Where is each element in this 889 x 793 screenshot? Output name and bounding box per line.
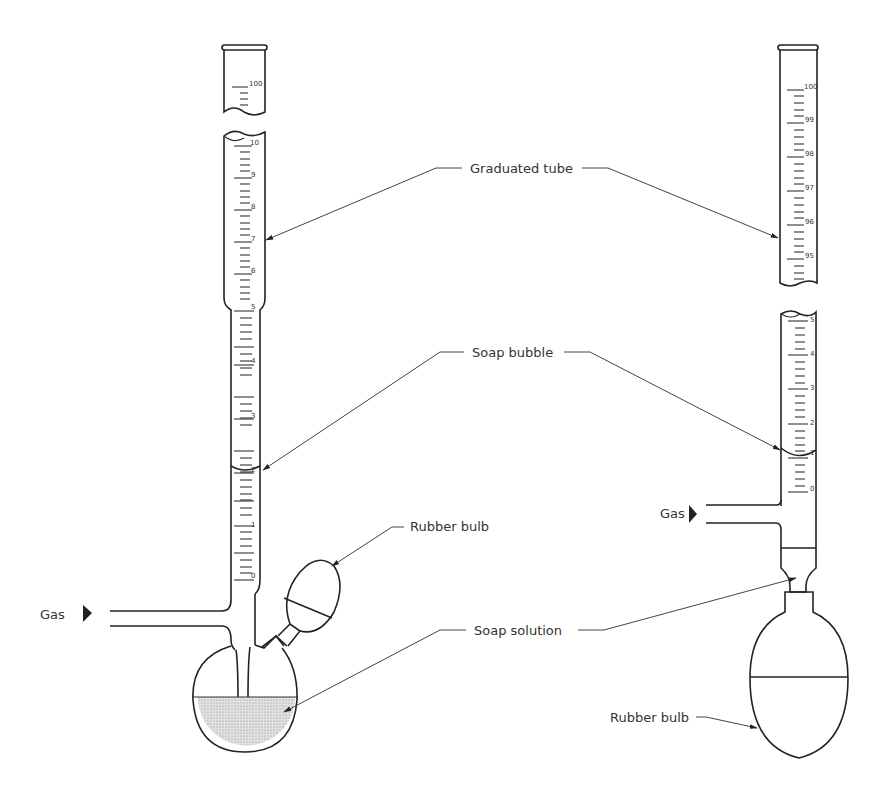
- tick-label: 100: [249, 80, 262, 88]
- left-gas-inlet: Gas: [40, 586, 235, 650]
- tick-label: 5: [810, 316, 814, 324]
- left-soap-bubble: [231, 466, 260, 470]
- tick-label: 95: [805, 252, 814, 260]
- tick-label: 97: [805, 184, 814, 192]
- tick-label: 6: [251, 267, 256, 275]
- left-flask: [193, 636, 298, 752]
- tick-label: 9: [251, 171, 255, 179]
- tick-label: 4: [251, 357, 256, 365]
- gas-arrow-icon: [83, 605, 92, 622]
- label-rubber-bulb-left: Rubber bulb: [410, 519, 489, 534]
- tick-label: 7: [251, 235, 255, 243]
- label-graduated-tube: Graduated tube: [470, 161, 573, 176]
- tick-label: 10: [250, 139, 259, 147]
- tick-label: 98: [805, 150, 814, 158]
- right-tube-upper-segment: [778, 45, 818, 286]
- tick-label: 99: [805, 116, 814, 124]
- right-soap-solution-neck: [781, 548, 816, 592]
- gas-label-left: Gas: [40, 607, 65, 622]
- right-gas-inlet: Gas: [660, 500, 781, 548]
- label-soap-bubble: Soap bubble: [472, 345, 553, 360]
- gas-label-right: Gas: [660, 506, 685, 521]
- right-tube-lower-segment: [781, 311, 816, 548]
- tick-label: 5: [251, 303, 255, 311]
- tick-label: 100: [804, 83, 817, 91]
- tick-label: 3: [810, 384, 814, 392]
- tick-label: 2: [810, 419, 814, 427]
- soap-solution-fill: [198, 697, 295, 746]
- left-lower-scale: 5 4 3 2 1 0: [234, 303, 256, 580]
- tick-label: 8: [251, 203, 255, 211]
- tick-label: 96: [805, 218, 814, 226]
- soap-bubble-flowmeter-diagram: 100 10 9 8 7 6: [0, 0, 889, 793]
- right-lower-scale: 5 4 3 2 1 0: [788, 316, 815, 493]
- left-tube-upper: [224, 131, 265, 594]
- right-apparatus: 100 99 98 97 96 95 5 4 3 2 1: [660, 45, 848, 758]
- right-rubber-bulb: [750, 592, 848, 758]
- tick-label: 1: [251, 521, 255, 529]
- left-apparatus: 100 10 9 8 7 6: [40, 45, 340, 752]
- left-upper-scale: 10 9 8 7 6: [234, 139, 259, 299]
- tick-label: 3: [251, 412, 255, 420]
- right-upper-scale: 100 99 98 97 96 95: [787, 83, 817, 279]
- tick-label: 0: [251, 572, 255, 580]
- annotations: Graduated tube Soap bubble Rubber bulb S…: [263, 161, 796, 728]
- tick-label: 0: [810, 485, 814, 493]
- left-rubber-bulb: [262, 560, 340, 647]
- left-tube-top-segment: 100: [222, 45, 267, 115]
- gas-arrow-icon: [689, 505, 697, 523]
- label-soap-solution: Soap solution: [474, 623, 562, 638]
- label-rubber-bulb-right: Rubber bulb: [610, 710, 689, 725]
- tick-label: 4: [810, 350, 815, 358]
